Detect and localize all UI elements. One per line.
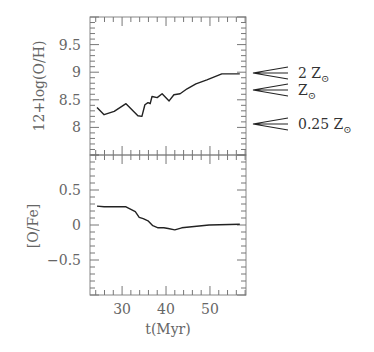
top-series-line xyxy=(97,74,240,117)
top-y-tick-label: 9.5 xyxy=(59,37,81,53)
x-tick-label: 30 xyxy=(113,301,131,317)
bottom-y-tick-label: 0 xyxy=(72,217,81,233)
bottom-y-axis-label: [O/Fe] xyxy=(25,204,41,248)
bottom-series-line xyxy=(97,206,240,230)
top-y-tick-label: 8 xyxy=(72,119,81,135)
sun-symbol-icon: ⊙ xyxy=(308,90,316,101)
tick-labels: 88.599.5−0.500.5304050 xyxy=(47,37,219,317)
sun-symbol-icon: ⊙ xyxy=(321,73,329,84)
arrow-icon xyxy=(253,118,288,130)
x-tick-label: 40 xyxy=(157,301,175,317)
top-y-tick-label: 9 xyxy=(72,64,81,80)
annotation-label: Z⊙ xyxy=(298,82,316,101)
bottom-y-tick-label: 0.5 xyxy=(59,182,81,198)
top-y-axis-label: 12+log(O/H) xyxy=(31,41,47,132)
top-y-tick-label: 8.5 xyxy=(59,92,81,108)
x-tick-label: 50 xyxy=(201,301,219,317)
arrow-icon xyxy=(253,84,288,96)
top-panel-frame xyxy=(90,17,246,155)
arrow-icon xyxy=(253,67,288,79)
chart: 88.599.5−0.500.5304050 12+log(O/H) [O/Fe… xyxy=(0,0,374,352)
bottom-y-tick-label: −0.5 xyxy=(47,252,81,268)
axis-ticks xyxy=(90,17,246,295)
arrow-annotation: 2 Z⊙ xyxy=(253,65,329,84)
x-axis-label: t(Myr) xyxy=(145,321,191,337)
arrow-annotation: Z⊙ xyxy=(253,82,316,101)
metallicity-annotations: 2 Z⊙Z⊙0.25 Z⊙ xyxy=(253,65,352,135)
sun-symbol-icon: ⊙ xyxy=(343,124,351,135)
arrow-annotation: 0.25 Z⊙ xyxy=(253,116,352,135)
annotation-label: 0.25 Z⊙ xyxy=(298,116,352,135)
